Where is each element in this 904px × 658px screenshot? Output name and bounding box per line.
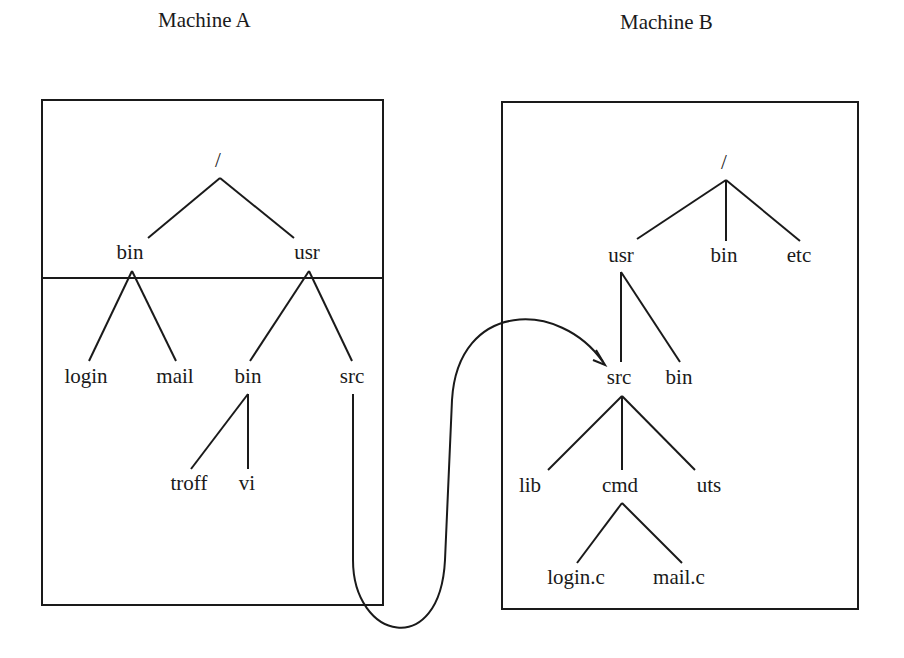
- node-a-src: src: [340, 366, 365, 387]
- node-a-troff: troff: [171, 473, 208, 494]
- node-b-etc: etc: [787, 245, 811, 266]
- tree-edges-a: [89, 178, 352, 469]
- node-b-login-c: login.c: [547, 567, 605, 588]
- node-a-mail: mail: [156, 366, 193, 387]
- node-b-uts: uts: [697, 475, 722, 496]
- machine-a-title: Machine A: [158, 8, 251, 33]
- node-b-bin: bin: [711, 245, 738, 266]
- node-b-usr: usr: [608, 245, 634, 266]
- machine-b-box: [502, 102, 858, 609]
- node-a-usr: usr: [294, 242, 320, 263]
- machine-b-title: Machine B: [620, 10, 713, 35]
- node-a-usr-bin: bin: [235, 366, 262, 387]
- node-b-lib: lib: [519, 475, 541, 496]
- node-a-root: /: [215, 150, 221, 171]
- machine-a-box: [42, 100, 383, 278]
- node-b-root: /: [721, 152, 727, 173]
- node-a-vi: vi: [239, 473, 255, 494]
- node-a-login: login: [64, 366, 107, 387]
- node-b-cmd: cmd: [602, 475, 638, 496]
- node-b-usr-bin: bin: [666, 367, 693, 388]
- node-b-src: src: [607, 367, 632, 388]
- node-a-bin: bin: [117, 242, 144, 263]
- diagram-lines: [0, 0, 904, 658]
- node-b-mail-c: mail.c: [653, 567, 705, 588]
